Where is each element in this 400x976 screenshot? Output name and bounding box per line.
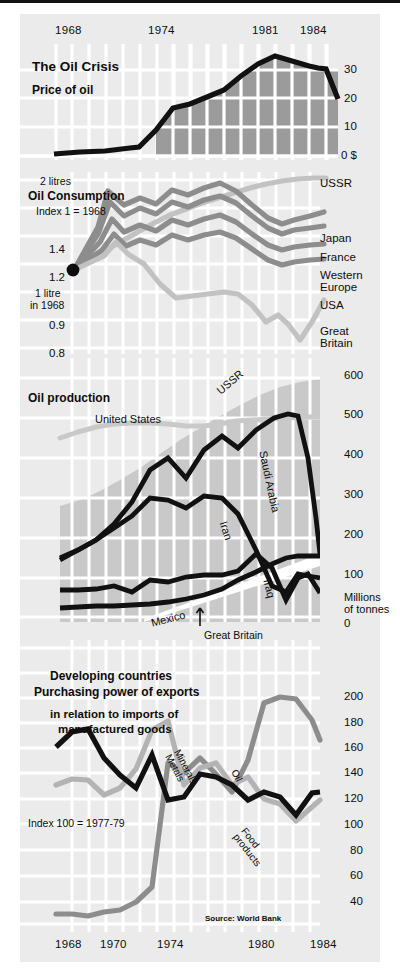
- panel4-title-line3: in relation to imports of: [50, 708, 178, 720]
- panel2-label-great-britain: Great Britain: [320, 325, 372, 350]
- panel2-title: Oil Consumption: [28, 190, 125, 203]
- panel1-subtitle: Price of oil: [32, 84, 93, 97]
- panel3-tick-0: 0: [344, 617, 350, 629]
- panel2-label-france: France: [320, 251, 356, 263]
- panel1-tick-0-dollar: 0 $: [341, 149, 357, 161]
- panel1-tick-30: 30: [344, 63, 357, 75]
- panel4-title-line4: manufactured goods: [58, 723, 172, 735]
- panel3-tick-200: 200: [344, 528, 363, 540]
- panel4-title-line2: Purchasing power of exports: [34, 686, 199, 699]
- panel4-tick-80: 80: [350, 844, 363, 856]
- panel4-title-line1: Developing countries: [50, 670, 172, 683]
- top-axis-year-1981: 1981: [252, 24, 279, 36]
- top-axis-year-1984: 1984: [300, 24, 327, 36]
- panel3-tick-600: 600: [344, 369, 363, 381]
- panel1-tick-20: 20: [344, 92, 357, 104]
- panel2-base-label-1: 1 litre: [35, 288, 61, 299]
- panel3-tick-300: 300: [344, 488, 363, 500]
- panel4-tick-100: 100: [344, 818, 363, 830]
- panel2-base-label-2: in 1968: [30, 300, 64, 311]
- panel2-tick-1-4: 1.4: [49, 243, 65, 255]
- top-axis-year-1974: 1974: [148, 24, 175, 36]
- panel2-label-usa: USA: [320, 299, 344, 311]
- panel2-tick-1-2: 1.2: [49, 271, 65, 283]
- panel3-label-united-states: United States: [95, 414, 161, 426]
- top-axis-year-1968: 1968: [55, 24, 82, 36]
- panel4-index-note: Index 100 = 1977-79: [28, 818, 125, 829]
- panel3-title: Oil production: [28, 392, 110, 405]
- panel3-tick-500: 500: [344, 408, 363, 420]
- panel1-tick-10: 10: [344, 120, 357, 132]
- panel2-label-western-europe: Western Europe: [320, 269, 378, 294]
- panel4-tick-180: 180: [344, 716, 363, 728]
- panel1-title: The Oil Crisis: [32, 60, 119, 75]
- panel4-tick-40: 40: [350, 895, 363, 907]
- infographic-page: 1968 1974 1981 1984: [0, 0, 400, 976]
- panel4-tick-140: 140: [344, 766, 363, 778]
- bottom-axis-year-1968: 1968: [55, 938, 82, 950]
- source-note: Source: World Bank: [205, 915, 281, 924]
- origin-dot: [67, 264, 80, 277]
- panel3-unit-line2: of tonnes: [344, 604, 389, 616]
- panel2-label-japan: Japan: [320, 232, 351, 244]
- bottom-axis-year-1970: 1970: [100, 938, 127, 950]
- panel4-tick-120: 120: [344, 792, 363, 804]
- panel4-tick-160: 160: [344, 741, 363, 753]
- top-rule: [0, 0, 400, 3]
- panel4-tick-60: 60: [350, 869, 363, 881]
- great-britain-pointer-icon: [196, 606, 222, 632]
- panel2-label-ussr: USSR: [320, 177, 352, 189]
- panel2-tick-0-9: 0.9: [49, 319, 65, 331]
- bottom-axis-year-1974: 1974: [157, 938, 184, 950]
- panel3-tick-100: 100: [344, 568, 363, 580]
- panel2-top-unit-label: 2 litres: [40, 176, 71, 187]
- panel2-index-note: Index 1 = 1968: [36, 206, 106, 217]
- panel4-tick-200: 200: [344, 690, 363, 702]
- bottom-axis-year-1984: 1984: [310, 938, 337, 950]
- panel3-tick-400: 400: [344, 448, 363, 460]
- bottom-axis-year-1980: 1980: [248, 938, 275, 950]
